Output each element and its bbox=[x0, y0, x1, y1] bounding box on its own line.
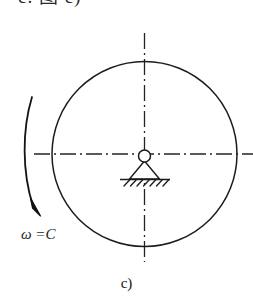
angular-velocity-arc bbox=[25, 97, 33, 206]
pin-support-triangle bbox=[130, 161, 160, 179]
figure-page: c. 图 c) ω =C c) bbox=[0, 0, 253, 304]
ground-hatching bbox=[124, 180, 169, 187]
mechanics-figure bbox=[0, 0, 253, 304]
pin-hinge-circle bbox=[139, 150, 151, 162]
figure-caption: c) bbox=[0, 275, 253, 292]
angular-velocity-arrowhead bbox=[31, 198, 41, 216]
angular-velocity-label: ω =C bbox=[21, 226, 55, 243]
